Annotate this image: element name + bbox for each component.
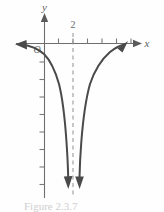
y-axis-group: y xyxy=(41,1,48,198)
right-branch-path xyxy=(80,45,125,179)
x-axis-label: x xyxy=(144,37,150,49)
figure-caption: Figure 2.3.7 xyxy=(24,200,77,212)
math-figure: x y O 2 xyxy=(0,0,164,212)
graph-canvas: x y O 2 xyxy=(0,0,164,212)
y-tick-marks xyxy=(40,62,45,185)
x-tick-label-2: 2 xyxy=(71,19,76,30)
x-axis-arrowhead xyxy=(133,40,142,47)
left-branch-path xyxy=(22,45,68,179)
y-axis-label: y xyxy=(41,1,47,13)
curve-right-branch xyxy=(75,41,128,189)
x-tick-marks xyxy=(59,39,132,44)
y-axis-arrowhead xyxy=(41,13,48,22)
left-branch-left-arrowhead xyxy=(15,40,27,50)
left-branch-down-arrowhead xyxy=(64,176,73,189)
right-branch-down-arrowhead xyxy=(75,177,84,190)
figure-caption-bar: Figure 2.3.7 xyxy=(0,200,164,212)
